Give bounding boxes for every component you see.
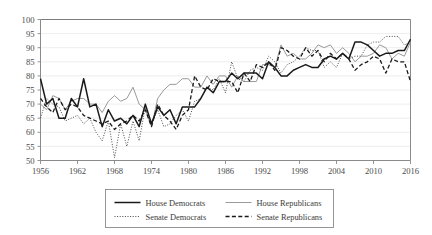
legend-label-house-republicans: House Republicans: [257, 199, 322, 208]
x-tick-label-2016: 2016: [402, 166, 420, 176]
x-tick-label-2010: 2010: [365, 166, 382, 176]
party-unity-line-chart: 50556065707580859095100 1956196219681974…: [0, 0, 432, 235]
x-tick-label-1986: 1986: [217, 166, 235, 176]
x-tick-label-1962: 1962: [69, 166, 86, 176]
y-tick-label-70: 70: [26, 99, 35, 109]
chart-legend: House DemocratsHouse RepublicansSenate D…: [106, 190, 334, 228]
legend-item-senate-republicans[interactable]: Senate Republicans: [226, 213, 323, 222]
y-tick-label-100: 100: [22, 15, 35, 25]
y-tick-label-85: 85: [26, 57, 35, 67]
x-tick-label-2004: 2004: [328, 166, 346, 176]
y-tick-label-65: 65: [26, 113, 35, 123]
y-tick-label-90: 90: [26, 43, 35, 53]
legend-item-senate-democrats[interactable]: Senate Democrats: [115, 213, 207, 222]
y-tick-label-60: 60: [26, 127, 35, 137]
gridlines: [41, 34, 411, 161]
y-tick-label-95: 95: [26, 29, 35, 39]
series-line-house-democrats: [41, 39, 411, 126]
series-line-senate-republicans: [41, 48, 411, 130]
x-tick-label-1968: 1968: [106, 166, 123, 176]
legend-item-house-republicans[interactable]: House Republicans: [226, 199, 322, 208]
legend-label-senate-republicans: Senate Republicans: [257, 213, 323, 222]
y-axis-tick-labels: 50556065707580859095100: [22, 15, 35, 166]
legend-label-house-democrats: House Democrats: [146, 199, 206, 208]
y-tick-label-80: 80: [26, 71, 35, 81]
legend-border: [106, 190, 334, 228]
series-line-senate-democrats: [41, 36, 411, 157]
x-tick-label-1974: 1974: [143, 166, 161, 176]
y-tick-label-55: 55: [26, 142, 35, 152]
legend-item-house-democrats[interactable]: House Democrats: [115, 199, 206, 208]
x-axis-tick-labels: 1956196219681974198019861992199820042010…: [32, 166, 420, 176]
chart-figure: 50556065707580859095100 1956196219681974…: [0, 0, 432, 235]
legend-label-senate-democrats: Senate Democrats: [146, 213, 207, 222]
y-tick-label-75: 75: [26, 85, 35, 95]
y-tick-label-50: 50: [26, 156, 35, 166]
x-tick-label-1998: 1998: [291, 166, 308, 176]
x-tick-label-1980: 1980: [180, 166, 197, 176]
axes: [38, 20, 411, 165]
series-line-house-republicans: [41, 42, 411, 127]
x-tick-label-1992: 1992: [254, 166, 271, 176]
data-series-group: [41, 36, 411, 157]
x-tick-label-1956: 1956: [32, 166, 50, 176]
